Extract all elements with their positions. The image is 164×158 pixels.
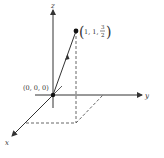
point-frac-num: 3 <box>101 24 105 30</box>
z-axis-label: z <box>50 2 55 10</box>
y-parallel-dashed <box>76 95 103 123</box>
origin-label: (0, 0, 0) <box>23 84 49 92</box>
position-vector <box>53 31 76 95</box>
point-dot <box>74 29 79 34</box>
diagram-canvas: z y x (0, 0, 0) ( 1, 1, 3 2 ) <box>0 0 164 158</box>
point-label-prefix: 1, 1, <box>84 28 98 36</box>
x-axis: x <box>5 95 53 147</box>
svg-text:): ) <box>106 24 111 40</box>
y-axis-label: y <box>144 92 150 100</box>
point-frac-den: 2 <box>101 32 105 38</box>
point-label: ( 1, 1, 3 2 ) <box>79 24 111 40</box>
vector-direction-arrow-icon <box>65 54 70 60</box>
projection-lines <box>26 31 103 123</box>
x-axis-label: x <box>5 139 9 147</box>
origin-dot <box>51 93 55 97</box>
